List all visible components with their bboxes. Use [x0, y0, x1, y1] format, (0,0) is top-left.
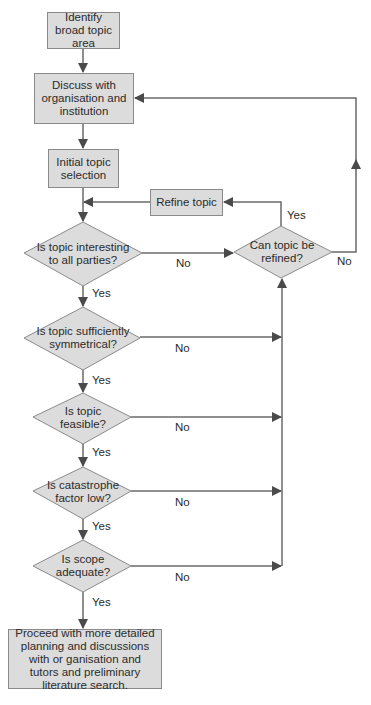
step-identify-topic: Identify broad topic area — [47, 12, 120, 49]
label-yes-interesting: Yes — [92, 287, 111, 300]
label-no-symmetrical: No — [175, 342, 190, 355]
label-no-catastrophe: No — [175, 496, 190, 509]
decision-feasible: Is topic feasible? — [50, 399, 116, 437]
label-yes-scope: Yes — [92, 596, 111, 609]
step-initial-label: Initial topic selection — [53, 156, 114, 182]
step-discuss-label: Discuss with organisation and institutio… — [39, 79, 129, 118]
decision-scope: Is scope adequate? — [50, 547, 116, 585]
label-yes-symmetrical: Yes — [92, 374, 111, 387]
label-no-scope: No — [175, 571, 190, 584]
step-proceed: Proceed with more detailed planning and … — [8, 629, 162, 689]
decision-can-refine-label: Can topic be refined? — [236, 239, 328, 265]
label-no-feasible: No — [175, 421, 190, 434]
step-identify-label: Identify broad topic area — [52, 11, 115, 50]
step-refine-label: Refine topic — [156, 196, 217, 209]
label-yes-catastrophe: Yes — [92, 520, 111, 533]
step-proceed-label: Proceed with more detailed planning and … — [15, 627, 155, 692]
step-discuss: Discuss with organisation and institutio… — [34, 73, 134, 124]
label-yes-can-refine: Yes — [287, 209, 306, 222]
decision-symmetrical: Is topic sufficiently symmetrical? — [36, 312, 130, 364]
decision-can-refine: Can topic be refined? — [236, 231, 328, 273]
step-refine-topic: Refine topic — [150, 189, 223, 216]
decision-catastrophe: Is catastrophe factor low? — [36, 470, 130, 514]
step-initial-selection: Initial topic selection — [48, 149, 119, 188]
decision-feasible-label: Is topic feasible? — [50, 405, 116, 431]
decision-interesting: Is topic interesting to all parties? — [34, 228, 132, 280]
decision-scope-label: Is scope adequate? — [50, 553, 116, 579]
label-no-interesting: No — [176, 257, 191, 270]
label-yes-feasible: Yes — [92, 446, 111, 459]
decision-catastrophe-label: Is catastrophe factor low? — [36, 479, 130, 505]
label-no-can-refine: No — [337, 255, 352, 268]
decision-interesting-label: Is topic interesting to all parties? — [34, 241, 132, 267]
decision-symmetrical-label: Is topic sufficiently symmetrical? — [36, 325, 130, 351]
